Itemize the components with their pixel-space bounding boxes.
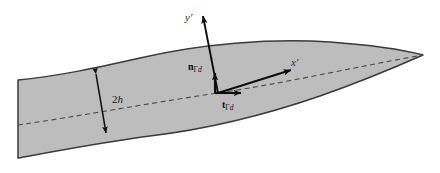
normal-vector-subscript: Γd	[194, 65, 202, 74]
y-axis-label: y′	[185, 12, 192, 23]
y-axis-prime: ′	[190, 11, 192, 23]
tangent-vector-label: tΓd	[222, 100, 233, 112]
diagram-svg	[0, 0, 440, 173]
tapered-body-shape	[18, 41, 423, 158]
x-axis-label: x′	[291, 57, 298, 68]
normal-vector-label: nΓd	[188, 62, 202, 74]
thickness-label: 2h	[112, 94, 123, 105]
thickness-symbol: h	[118, 93, 124, 105]
normal-subscript-d: d	[198, 65, 202, 74]
x-axis-prime: ′	[296, 56, 298, 68]
figure-canvas: y′ x′ 2h nΓd tΓd	[0, 0, 440, 173]
tangent-vector-subscript: Γd	[225, 103, 233, 112]
tangent-subscript-d: d	[230, 103, 234, 112]
